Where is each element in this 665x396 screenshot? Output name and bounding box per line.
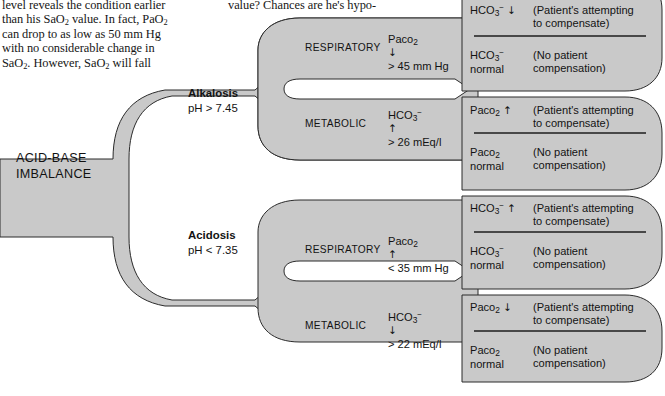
measure-line2: > 26 mEq/l: [388, 136, 441, 149]
outcome-value-4a: Paco2 ↓: [470, 301, 512, 315]
subbranch-measure-acidosis-metabolic: HCO3− ↓ > 22 mEq/l: [388, 311, 441, 351]
measure-line1: HCO3− ↑: [388, 109, 441, 136]
root-node-label: ACID-BASE IMBALANCE: [16, 150, 91, 182]
outcome-value-line1: Paco2: [470, 146, 504, 160]
outcome-note-line1: (Patient's attempting: [533, 4, 634, 17]
branch-criterion-alkalosis: pH > 7.45: [188, 101, 238, 116]
outcome-note-line1: (No patient: [533, 344, 606, 357]
outcome-value-2b: Paco2 normal: [470, 146, 504, 173]
outcome-note-line1: (No patient: [533, 146, 606, 159]
branch-label-alkalosis: Alkalosis pH > 7.45: [188, 86, 238, 116]
branch-name-alkalosis: Alkalosis: [188, 86, 238, 101]
outcome-note-line2: to compensate): [533, 215, 634, 228]
outcome-note-2b: (No patient compensation): [533, 146, 606, 171]
outcome-note-line2: to compensate): [533, 314, 634, 327]
outcome-value-line2: normal: [470, 259, 504, 273]
outcome-note-4a: (Patient's attempting to compensate): [533, 301, 634, 326]
alkalosis-branch-separator-slot: [284, 79, 470, 99]
measure-line2: > 45 mm Hg: [388, 60, 449, 73]
subbranch-type-alkalosis-metabolic: METABOLIC: [305, 118, 366, 129]
outcome-value-line1: Paco2 ↓: [470, 301, 512, 315]
outcome-note-1a: (Patient's attempting to compensate): [533, 4, 634, 29]
outcome-value-4b: Paco2 normal: [470, 344, 504, 371]
branch-name-acidosis: Acidosis: [188, 228, 238, 243]
outcome-note-line2: to compensate): [533, 17, 634, 30]
outcome-value-2a: Paco2 ↑: [470, 104, 512, 118]
outcome-value-line2: normal: [470, 63, 504, 77]
subbranch-type-acidosis-respiratory: RESPIRATORY: [305, 244, 381, 255]
outcome-value-1b: HCO3− normal: [470, 49, 504, 76]
outcome-note-line1: (Patient's attempting: [533, 104, 634, 117]
outcome-note-line2: compensation): [533, 62, 606, 75]
outcome-value-line1: HCO3− ↓: [470, 4, 516, 18]
measure-line1: Paco2 ↑: [388, 235, 449, 262]
root-label-line2: IMBALANCE: [16, 166, 91, 182]
outcome-value-line2: normal: [470, 358, 504, 372]
outcome-value-line2: normal: [470, 160, 504, 174]
outcome-note-line2: compensation): [533, 258, 606, 271]
outcome-note-1b: (No patient compensation): [533, 49, 606, 74]
outcome-note-line1: (No patient: [533, 49, 606, 62]
outcome-value-line1: Paco2 ↑: [470, 104, 512, 118]
outcome-note-line1: (Patient's attempting: [533, 202, 634, 215]
outcome-note-line2: compensation): [533, 357, 606, 370]
subbranch-type-alkalosis-respiratory: RESPIRATORY: [305, 42, 381, 53]
outcome-note-line2: compensation): [533, 159, 606, 172]
outcome-note-line1: (No patient: [533, 245, 606, 258]
branch-criterion-acidosis: pH < 7.35: [188, 243, 238, 258]
outcome-value-1a: HCO3− ↓: [470, 4, 516, 18]
outcome-value-line1: HCO3−: [470, 245, 504, 259]
subbranch-measure-alkalosis-metabolic: HCO3− ↑ > 26 mEq/l: [388, 109, 441, 149]
diagram-page: level reveals the condition earlierthan …: [0, 0, 665, 396]
outcome-value-line1: Paco2: [470, 344, 504, 358]
measure-line1: Paco2 ↓: [388, 33, 449, 60]
measure-line2: > 22 mEq/l: [388, 338, 441, 351]
subbranch-type-acidosis-metabolic: METABOLIC: [305, 320, 366, 331]
subbranch-measure-alkalosis-respiratory: Paco2 ↓ > 45 mm Hg: [388, 33, 449, 73]
subbranch-measure-acidosis-respiratory: Paco2 ↑ < 35 mm Hg: [388, 235, 449, 275]
outcome-note-4b: (No patient compensation): [533, 344, 606, 369]
outcome-value-line1: HCO3− ↑: [470, 202, 516, 216]
outcome-note-2a: (Patient's attempting to compensate): [533, 104, 634, 129]
outcome-value-line1: HCO3−: [470, 49, 504, 63]
outcome-value-3b: HCO3− normal: [470, 245, 504, 272]
outcome-note-line1: (Patient's attempting: [533, 301, 634, 314]
outcome-note-3b: (No patient compensation): [533, 245, 606, 270]
root-label-line1: ACID-BASE: [16, 150, 91, 166]
outcome-note-3a: (Patient's attempting to compensate): [533, 202, 634, 227]
branch-label-acidosis: Acidosis pH < 7.35: [188, 228, 238, 258]
outcome-value-3a: HCO3− ↑: [470, 202, 516, 216]
measure-line1: HCO3− ↓: [388, 311, 441, 338]
measure-line2: < 35 mm Hg: [388, 262, 449, 275]
outcome-note-line2: to compensate): [533, 117, 634, 130]
